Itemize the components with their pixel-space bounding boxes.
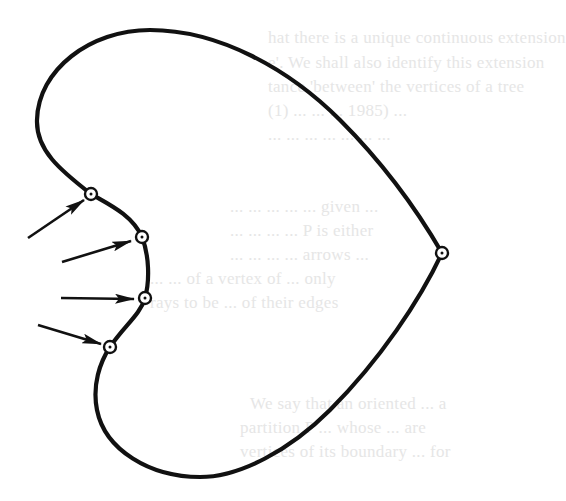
vertex-marker-1 <box>85 188 97 200</box>
closed-curve <box>37 30 442 477</box>
arrow-2 <box>62 241 131 262</box>
vertex-markers <box>85 188 448 353</box>
arrow-3 <box>61 298 134 299</box>
vertex-marker-2 <box>136 231 148 243</box>
arrow-1 <box>28 200 84 238</box>
vertex-marker-5 <box>436 247 448 259</box>
vertex-marker-3 <box>139 292 151 304</box>
vertex-marker-4 <box>104 341 116 353</box>
arrows <box>28 200 134 344</box>
arrow-4 <box>38 325 101 344</box>
